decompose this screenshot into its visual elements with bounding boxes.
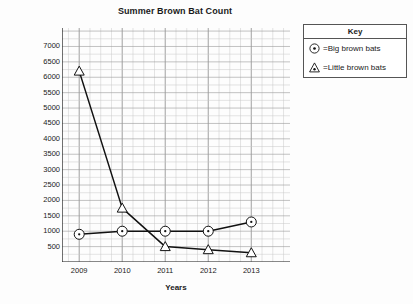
data-point-dot	[121, 230, 123, 232]
y-tick-label: 6500	[26, 58, 60, 66]
legend-item-big-brown-bats: =Big brown bats	[304, 39, 406, 58]
y-tick-label: 3000	[26, 166, 60, 174]
legend-title: Key	[304, 25, 406, 39]
legend-label-big-brown-bats: =Big brown bats	[323, 44, 381, 53]
y-tick-label: 2000	[26, 196, 60, 204]
x-axis-tick-labels: 20092010201120122013	[62, 266, 290, 280]
page-title: Summer Brown Bat Count	[60, 6, 290, 16]
y-axis-tick-labels: 5001000150020002500300035004000450050005…	[22, 28, 60, 262]
x-tick-label: 2010	[102, 266, 142, 275]
x-tick-label: 2011	[145, 266, 185, 275]
legend-key-box: Key =Big brown bats =Little brown bats	[303, 24, 407, 78]
y-tick-label: 500	[26, 243, 60, 251]
y-tick-label: 4000	[26, 135, 60, 143]
data-point-marker	[117, 203, 127, 212]
data-point-marker	[74, 66, 84, 75]
legend-label-little-brown-bats: =Little brown bats	[323, 63, 386, 72]
x-tick-label: 2009	[59, 266, 99, 275]
data-series-layer	[62, 28, 290, 262]
y-tick-label: 1000	[26, 227, 60, 235]
legend-item-little-brown-bats: =Little brown bats	[304, 58, 406, 77]
circle-dot-marker-icon	[308, 42, 321, 55]
x-tick-label: 2012	[188, 266, 228, 275]
y-tick-label: 6000	[26, 73, 60, 81]
plot-area	[62, 28, 290, 262]
series-line	[79, 71, 251, 253]
y-tick-label: 5000	[26, 104, 60, 112]
data-point-dot	[250, 221, 252, 223]
y-tick-label: 5500	[26, 89, 60, 97]
x-tick-label: 2013	[231, 266, 271, 275]
y-tick-label: 4500	[26, 119, 60, 127]
data-point-dot	[164, 230, 166, 232]
chart-page: Summer Brown Bat Count Number of Bats Ye…	[0, 0, 413, 304]
y-tick-label: 3500	[26, 150, 60, 158]
data-point-dot	[207, 230, 209, 232]
x-axis-title: Years	[62, 283, 290, 292]
triangle-marker-icon	[308, 61, 321, 74]
y-tick-label: 7000	[26, 42, 60, 50]
data-point-dot	[78, 233, 80, 235]
y-tick-label: 2500	[26, 181, 60, 189]
y-tick-label: 1500	[26, 212, 60, 220]
